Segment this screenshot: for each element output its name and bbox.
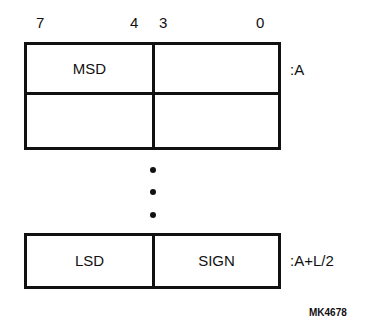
bit-label-3: 3 <box>159 14 167 31</box>
byte-divider <box>24 92 281 95</box>
ellipsis-dot-2 <box>150 189 156 195</box>
bit-label-4: 4 <box>130 14 138 31</box>
lsd-label: LSD <box>27 252 152 269</box>
msd-label: MSD <box>27 60 152 77</box>
ellipsis-dot-1 <box>150 167 156 173</box>
sign-label: SIGN <box>155 252 278 269</box>
nibble-divider-top <box>152 42 155 150</box>
bit-label-0: 0 <box>256 14 264 31</box>
bit-label-7: 7 <box>36 14 44 31</box>
figure-id: MK4678 <box>309 307 347 318</box>
address-a-plus-l-half: :A+L/2 <box>290 252 334 269</box>
ellipsis-dot-3 <box>150 212 156 218</box>
address-a: :A <box>290 61 304 78</box>
